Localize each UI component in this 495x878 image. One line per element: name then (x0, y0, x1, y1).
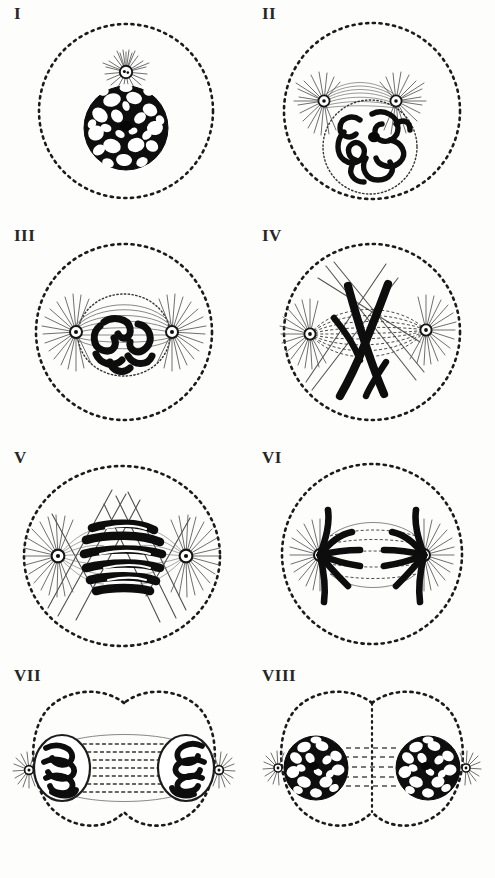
aster-left (13, 752, 35, 788)
chromatin-coils (94, 319, 152, 372)
nucleolus (120, 121, 133, 131)
aster-left (42, 294, 91, 371)
chromosome (419, 555, 424, 602)
mitosis-plate: I .memb { fill:none; stroke:#1b1b1b; str… (0, 0, 495, 878)
chromosome (96, 588, 150, 591)
panel-vii-figure (0, 662, 247, 878)
mantle-fibres (306, 262, 424, 390)
panel-label-vi: VI (262, 449, 282, 466)
daughter-nucleus-right (396, 736, 460, 800)
nucleolus (421, 762, 431, 770)
panel-label-iii: III (14, 227, 35, 244)
chromosome (86, 536, 160, 542)
panel-label-v: V (14, 449, 27, 466)
panel-label-iv: IV (262, 227, 282, 244)
aster-right (171, 515, 220, 597)
panel-label-ii: II (262, 5, 276, 22)
cell-membrane (284, 23, 460, 199)
centriole (123, 70, 126, 73)
nucleolus (368, 132, 380, 142)
panel-v: V (0, 444, 247, 663)
cell-membrane (36, 244, 212, 420)
panel-label-i: I (14, 5, 21, 22)
panel-i-figure: .memb { fill:none; stroke:#1b1b1b; strok… (0, 0, 247, 219)
panel-label-vii: VII (14, 667, 41, 684)
interzonal-remnant (343, 748, 403, 786)
aster-right (213, 752, 235, 788)
daughter-nucleus-right (158, 735, 214, 801)
panel-vi-figure (248, 444, 495, 663)
panel-vii: VII (0, 662, 247, 878)
central-spindle (324, 83, 396, 109)
spindle-fibres (76, 305, 172, 349)
nucleus-reticulum (84, 84, 168, 170)
panel-iii: III (0, 222, 247, 441)
equatorial-plate (84, 524, 162, 591)
aster-right (410, 295, 456, 365)
centriole (127, 71, 130, 74)
panel-vi: VI (248, 444, 495, 663)
cell-membrane (282, 464, 462, 644)
aster-right (460, 751, 481, 785)
chromosome (320, 555, 325, 602)
panel-viii-figure (248, 662, 495, 878)
aster-left (263, 751, 284, 785)
daughter-nucleus-left (34, 735, 90, 801)
panel-iv-figure (248, 222, 495, 441)
panel-ii-figure (248, 0, 495, 219)
long-astral-fibres (48, 490, 190, 622)
panel-label-viii: VIII (262, 667, 296, 684)
panel-iii-figure (0, 222, 247, 441)
panel-viii: VIII (248, 662, 495, 878)
spireme-thread (338, 112, 410, 182)
panel-ii: II (248, 0, 495, 219)
panel-iv: IV (248, 222, 495, 441)
nucleolus (309, 762, 319, 770)
panel-i: I .memb { fill:none; stroke:#1b1b1b; str… (0, 0, 247, 219)
aster-right (157, 294, 206, 371)
panel-v-figure (0, 444, 247, 663)
daughter-nucleus-left (284, 736, 348, 800)
daughter-chromosomes-left (320, 510, 360, 602)
centrosome-ring (120, 66, 132, 78)
aster-left (24, 515, 73, 597)
